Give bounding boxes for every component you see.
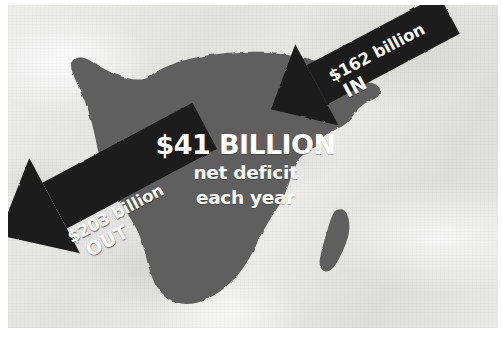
photo-plate: $41 BILLION net deficit each year $203 b… (8, 5, 498, 328)
artwork-layer (8, 5, 498, 328)
infographic-root: $41 BILLION net deficit each year $203 b… (0, 0, 502, 343)
madagascar-shape (320, 209, 350, 271)
